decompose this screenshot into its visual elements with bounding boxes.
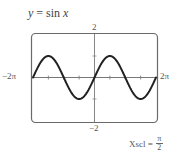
xscl-label: Xscl = π 2 — [129, 135, 163, 152]
xscl-prefix: Xscl = — [129, 139, 153, 149]
xscl-denominator: 2 — [157, 144, 161, 152]
y-min-label: −2 — [89, 123, 99, 133]
xscl-numerator: π — [157, 135, 161, 143]
xscl-fraction: π 2 — [156, 135, 163, 152]
x-min-label: −2π — [2, 71, 16, 81]
x-max-label: 2π — [160, 71, 169, 81]
y-max-label: 2 — [92, 22, 97, 32]
